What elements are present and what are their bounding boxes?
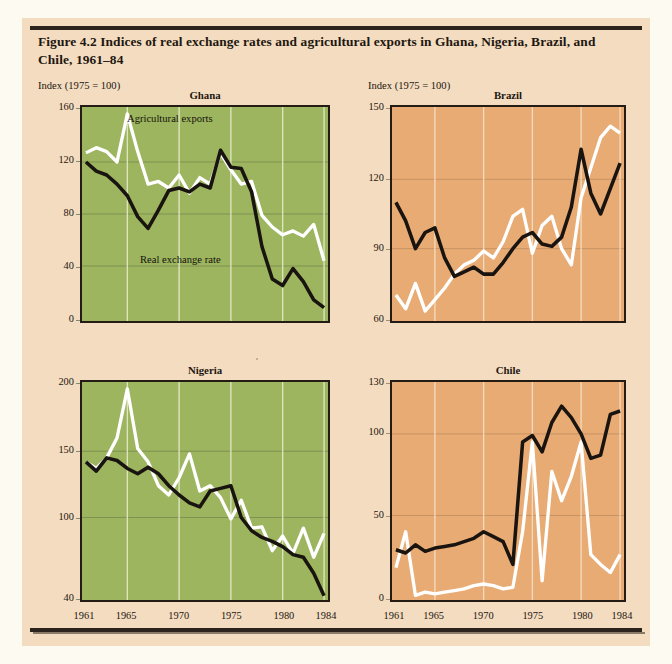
gridlines-ghana <box>82 162 328 266</box>
panel-title-brazil: Brazil <box>390 89 626 101</box>
figure-page: Figure 4.2 Indices of real exchange rate… <box>0 0 672 664</box>
ytick-label-brazil-150: 150 <box>344 101 384 112</box>
panel-nigeria-plot <box>82 382 328 600</box>
series-label-real-exchange-rate: Real exchange rate <box>140 254 221 265</box>
panel-ghana <box>80 105 330 323</box>
vertical-gridlines-brazil <box>435 107 620 321</box>
panel-nigeria <box>80 380 330 602</box>
panel-brazil <box>390 105 626 323</box>
ytick-leader <box>386 179 390 180</box>
line-real-exchange-rate-ghana <box>86 150 324 307</box>
top-rule <box>30 26 642 30</box>
xtick-label-chile-1970: 1970 <box>464 610 502 621</box>
ytick-leader <box>76 161 80 162</box>
panel-chile <box>390 380 626 602</box>
xtick-label-nigeria-1961: 1961 <box>65 610 103 621</box>
figure-title: Figure 4.2 Indices of real exchange rate… <box>38 33 623 69</box>
ytick-label-chile-130: 130 <box>344 376 384 387</box>
ytick-leader <box>386 249 390 250</box>
ytick-label-nigeria-40: 40 <box>34 592 74 603</box>
vertical-gridlines-nigeria <box>127 382 324 600</box>
ytick-leader <box>76 108 80 109</box>
ytick-label-ghana-160: 160 <box>34 101 74 112</box>
xtick-label-chile-1961: 1961 <box>375 610 413 621</box>
xtick-label-nigeria-1965: 1965 <box>107 610 145 621</box>
ytick-leader <box>76 518 80 519</box>
ytick-leader <box>386 108 390 109</box>
ytick-label-brazil-60: 60 <box>344 313 384 324</box>
line-real-exchange-rate-brazil <box>396 149 620 276</box>
xtick-label-nigeria-1970: 1970 <box>160 610 198 621</box>
ytick-leader <box>76 383 80 384</box>
ytick-leader <box>386 516 390 517</box>
ytick-label-ghana-0: 0 <box>34 313 74 324</box>
ytick-label-chile-100: 100 <box>344 426 384 437</box>
line-real-exchange-rate-nigeria <box>86 458 324 596</box>
ytick-label-nigeria-200: 200 <box>34 376 74 387</box>
ytick-leader <box>76 267 80 268</box>
bottom-rule-shadow <box>33 632 645 634</box>
panel-ghana-plot <box>82 107 328 321</box>
ytick-leader <box>386 599 390 600</box>
xtick-label-chile-1975: 1975 <box>514 610 552 621</box>
ytick-label-chile-50: 50 <box>344 509 384 520</box>
xtick-label-nigeria-1984: 1984 <box>307 610 345 621</box>
ytick-leader <box>386 383 390 384</box>
ytick-leader <box>76 599 80 600</box>
ytick-label-brazil-90: 90 <box>344 242 384 253</box>
xtick-label-nigeria-1980: 1980 <box>265 610 303 621</box>
ytick-label-brazil-120: 120 <box>344 172 384 183</box>
xtick-label-nigeria-1975: 1975 <box>212 610 250 621</box>
ytick-leader <box>76 451 80 452</box>
xtick-label-chile-1965: 1965 <box>415 610 453 621</box>
panel-chile-plot <box>392 382 624 600</box>
line-agricultural-exports-nigeria <box>86 389 324 557</box>
panel-title-nigeria: Nigeria <box>80 364 330 376</box>
panel-title-chile: Chile <box>390 364 626 376</box>
xtick-label-chile-1984: 1984 <box>603 610 641 621</box>
ytick-label-ghana-120: 120 <box>34 154 74 165</box>
series-label-agricultural-exports: Agricultural exports <box>127 113 213 124</box>
gridlines-chile <box>392 434 624 516</box>
ytick-leader <box>386 320 390 321</box>
ytick-label-ghana-80: 80 <box>34 207 74 218</box>
ytick-label-chile-0: 0 <box>344 592 384 603</box>
ytick-label-nigeria-100: 100 <box>34 511 74 522</box>
line-agricultural-exports-brazil <box>396 126 620 311</box>
panel-title-ghana: Ghana <box>80 89 330 101</box>
paper-speck <box>256 358 258 360</box>
ytick-leader <box>76 320 80 321</box>
ytick-leader <box>386 433 390 434</box>
ytick-label-nigeria-150: 150 <box>34 444 74 455</box>
ytick-leader <box>76 214 80 215</box>
line-agricultural-exports-chile <box>396 442 620 595</box>
xtick-label-chile-1980: 1980 <box>563 610 601 621</box>
panel-brazil-plot <box>392 107 624 321</box>
ytick-label-ghana-40: 40 <box>34 260 74 271</box>
